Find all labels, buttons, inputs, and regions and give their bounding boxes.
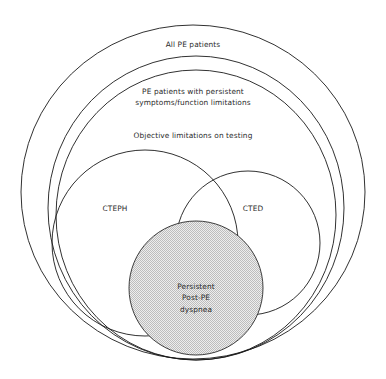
set-circle-persistent-post-pe-dyspnea <box>129 221 263 355</box>
venn-diagram-figure: All PE patients PE patients with persist… <box>0 0 386 379</box>
venn-diagram-canvas <box>0 0 386 379</box>
